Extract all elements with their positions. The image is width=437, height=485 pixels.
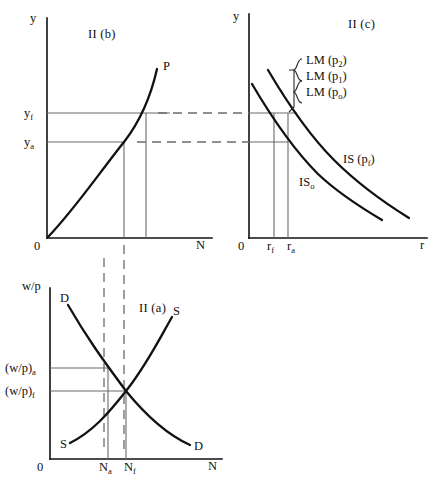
panel-IIa-x-axis-label: N — [208, 459, 217, 473]
panel-IIa-y-axis-label: w/p — [22, 279, 41, 293]
panel-IIc-x-axis-label: r — [420, 238, 425, 252]
production-function-curve — [48, 69, 157, 237]
lm-curve-label-po: LM (po) — [306, 85, 347, 101]
panel-IIa-tick-wpf: (w/p)f — [5, 384, 35, 400]
labour-demand-label-top: D — [60, 291, 69, 305]
figure-root: y N 0 II (b) P yf ya — [0, 0, 437, 485]
svg-text:yf: yf — [24, 106, 33, 122]
panel-IIa-tick-wpa: (w/p)a — [5, 361, 36, 377]
panel-IIa-origin-label: 0 — [37, 460, 43, 474]
panel-IIa: w/p N 0 II (a) D D S S (w/p)a (w/p)f Na … — [5, 279, 222, 476]
panel-IIc-origin-label: 0 — [238, 239, 244, 253]
panel-IIb-y-axis-label: y — [30, 11, 37, 25]
is-curve-label-pf: IS (pf) — [343, 152, 375, 168]
panel-IIb-origin-label: 0 — [34, 239, 40, 253]
panel-IIc-tick-ra: ra — [287, 239, 295, 255]
panel-IIc-title: II (c) — [348, 17, 375, 31]
panel-IIb-title: II (b) — [88, 27, 116, 41]
labour-demand-curve — [68, 305, 190, 445]
panel-IIc-y-axis-label: y — [233, 9, 240, 23]
is-curve-label-o: ISo — [299, 175, 314, 191]
labour-supply-label-top: S — [173, 304, 180, 318]
panel-IIb-tick-yf: yf — [24, 106, 33, 122]
panel-IIb: y N 0 II (b) P yf ya — [24, 11, 212, 253]
panel-IIb-x-axis-label: N — [196, 238, 205, 252]
tick-yf-sub: f — [30, 112, 33, 122]
lm-brace-lower — [294, 81, 302, 103]
lm-curve-label-p1: LM (p1) — [306, 69, 347, 85]
svg-text:ya: ya — [24, 135, 34, 151]
tick-ya-sub: a — [30, 141, 34, 151]
labour-demand-label-bottom: D — [194, 439, 203, 453]
panel-IIa-tick-Nf: Nf — [124, 460, 136, 476]
lm-curve-label-p2: LM (p2) — [306, 53, 347, 69]
panel-IIa-tick-Na: Na — [99, 460, 112, 476]
production-function-label: P — [163, 59, 170, 73]
panel-IIc-tick-rf: rf — [267, 239, 274, 255]
economics-three-panel-diagram: y N 0 II (b) P yf ya — [0, 0, 437, 485]
panel-IIa-title: II (a) — [139, 301, 166, 315]
lm-brace-upper — [294, 59, 302, 81]
labour-supply-label-bottom: S — [60, 437, 67, 451]
panel-IIb-tick-ya: ya — [24, 135, 34, 151]
panel-IIc: y r 0 II (c) LM (p2) LM (p1) LM (po) IS … — [233, 9, 427, 255]
